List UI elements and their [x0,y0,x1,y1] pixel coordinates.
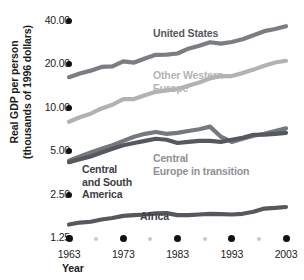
gdp-per-person-chart: Real GDP per person (thousands of 1996 d… [0,0,304,280]
series-line-africa [69,207,286,225]
plot-area [0,0,304,280]
series-label-africa: Africa [140,210,169,223]
series-label-central-europe-in-transition: Central Europe in transition [153,152,249,177]
series-label-united-states: United States [153,27,218,40]
series-label-other-western-europe: Other Western Europe [153,69,223,94]
series-label-central-and-south-america: Central and South America [82,163,132,201]
